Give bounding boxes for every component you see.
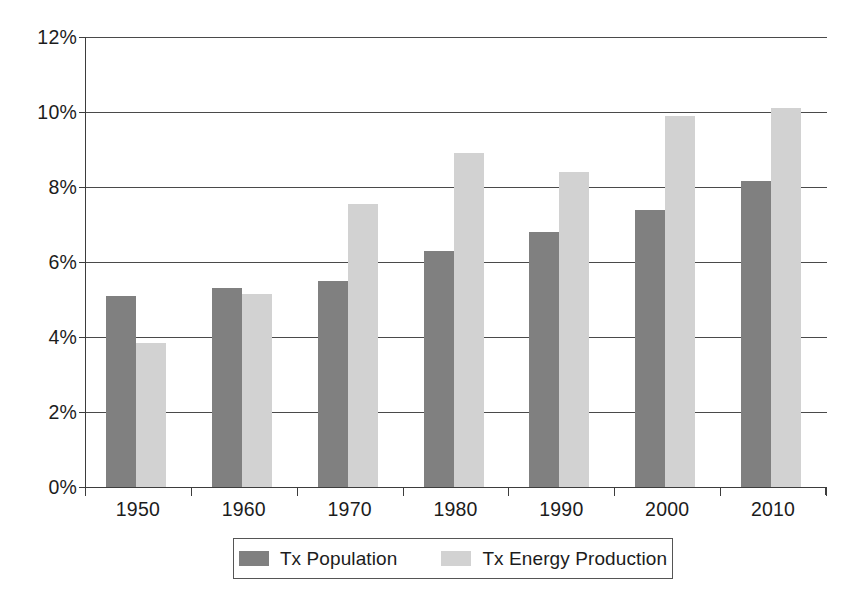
x-axis-line — [85, 487, 826, 488]
x-axis-tick-label: 1980 — [433, 498, 477, 521]
y-axis-tick-label: 0% — [48, 476, 77, 499]
y-axis-tick-label: 10% — [37, 101, 77, 124]
x-tick-mark — [85, 487, 86, 496]
x-tick-mark — [508, 487, 509, 496]
bar — [665, 116, 695, 487]
y-tick-mark — [79, 187, 86, 188]
x-tick-mark — [614, 487, 615, 496]
y-tick-mark — [79, 412, 86, 413]
bar — [741, 181, 771, 487]
bar — [136, 343, 166, 487]
x-axis-tick-label: 2010 — [751, 498, 795, 521]
bar — [212, 288, 242, 487]
y-axis-tick-label: 6% — [48, 251, 77, 274]
x-tick-mark — [720, 487, 721, 496]
bar-group — [741, 37, 801, 487]
x-axis-tick-label: 1950 — [116, 498, 160, 521]
legend-label: Tx Energy Production — [482, 548, 667, 570]
bar — [529, 232, 559, 487]
bar — [318, 281, 348, 487]
bar-group — [529, 37, 589, 487]
bar-group — [106, 37, 166, 487]
x-axis-tick-label: 1970 — [328, 498, 372, 521]
legend-entry[interactable]: Tx Energy Production — [441, 548, 667, 570]
bar-chart: 12%10%8%6%4%2%0% Tx PopulationTx Energy … — [0, 0, 858, 610]
bar — [454, 153, 484, 487]
y-tick-mark — [79, 37, 86, 38]
bar — [635, 210, 665, 488]
chart-legend: Tx PopulationTx Energy Production — [233, 538, 673, 579]
plot-area: 12%10%8%6%4%2%0% — [85, 37, 826, 487]
y-tick-mark — [79, 262, 86, 263]
x-tick-mark — [297, 487, 298, 496]
x-tick-mark — [826, 487, 827, 496]
bar — [424, 251, 454, 487]
y-axis-tick-label: 8% — [48, 176, 77, 199]
x-axis-tick-label: 1990 — [539, 498, 583, 521]
bar — [106, 296, 136, 487]
legend-entry[interactable]: Tx Population — [239, 548, 397, 570]
legend-swatch-icon — [441, 551, 471, 566]
x-tick-mark — [403, 487, 404, 496]
bar-group — [635, 37, 695, 487]
bar-group — [424, 37, 484, 487]
x-axis-tick-label: 1960 — [222, 498, 266, 521]
legend-swatch-icon — [239, 551, 269, 566]
x-tick-mark — [191, 487, 192, 496]
bar — [348, 204, 378, 487]
y-axis-tick-label: 4% — [48, 326, 77, 349]
y-axis-tick-label: 2% — [48, 401, 77, 424]
bar — [559, 172, 589, 487]
bar — [771, 108, 801, 487]
bar-group — [212, 37, 272, 487]
bar-group — [318, 37, 378, 487]
x-axis-tick-label: 2000 — [645, 498, 689, 521]
y-axis-tick-label: 12% — [37, 26, 77, 49]
y-tick-mark — [79, 337, 86, 338]
bar — [242, 294, 272, 487]
y-tick-mark — [79, 112, 86, 113]
legend-label: Tx Population — [280, 548, 397, 570]
